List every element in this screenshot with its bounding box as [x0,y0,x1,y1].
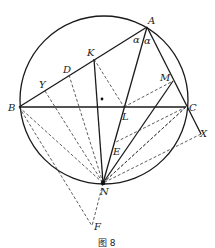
segment-MN [103,81,173,183]
dashed-KL [94,59,124,107]
dashed-YN [45,91,103,183]
label-D: D [62,64,71,75]
geometry-diagram: A B C K D Y M L E N F X α α 图 8 [0,0,215,248]
dashed-BF [19,107,92,226]
segment-KN [94,59,103,183]
angle-label-2: α [144,35,151,46]
label-M: M [159,72,171,83]
center-dot [101,98,104,101]
label-K: K [86,47,95,58]
figure-caption: 图 8 [98,238,116,248]
point-N [101,181,105,185]
label-A: A [147,15,155,26]
label-F: F [93,221,102,232]
label-N: N [99,186,110,197]
dashed-LM [124,81,173,107]
label-L: L [121,111,129,122]
label-X: X [199,128,208,139]
label-B: B [7,102,15,113]
dashed-YE [103,107,186,183]
circumcircle [20,16,188,184]
label-C: C [189,102,197,113]
angle-label-1: α [133,34,140,45]
label-Y: Y [39,79,47,90]
label-E: E [112,146,121,157]
dashed-DN [69,75,103,183]
